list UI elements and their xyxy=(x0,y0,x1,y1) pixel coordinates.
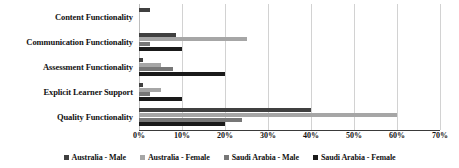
legend-item[interactable]: Australia - Male xyxy=(64,153,126,162)
bar xyxy=(139,63,161,67)
x-tick-label: 60% xyxy=(377,131,417,140)
bar-group xyxy=(139,80,440,105)
legend-swatch-icon xyxy=(313,155,318,160)
chart-legend: Australia - MaleAustralia - FemaleSaudi … xyxy=(0,150,459,164)
bar xyxy=(139,37,247,41)
bar xyxy=(139,88,161,92)
plot-area xyxy=(139,4,440,131)
bar xyxy=(139,97,182,101)
x-tick-label: 20% xyxy=(205,131,245,140)
bar-chart: Content FunctionalityCommunication Funct… xyxy=(0,0,459,168)
legend-swatch-icon xyxy=(64,155,69,160)
gridline-70 xyxy=(440,4,441,130)
bar-group xyxy=(139,105,440,130)
bar-group xyxy=(139,29,440,54)
legend-label: Australia - Male xyxy=(72,153,126,162)
bar xyxy=(139,58,143,62)
bar xyxy=(139,83,143,87)
legend-item[interactable]: Saudi Arabia - Female xyxy=(313,153,396,162)
legend-label: Australia - Female xyxy=(148,153,210,162)
plot-wrapper: Content FunctionalityCommunication Funct… xyxy=(0,4,459,130)
bar xyxy=(139,42,150,46)
category-label: Communication Functionality xyxy=(0,37,133,47)
category-label: Quality Functionality xyxy=(0,112,133,122)
bar xyxy=(139,122,225,126)
bar xyxy=(139,108,311,112)
x-axis-tick-labels: 0%10%20%30%40%50%60%70% xyxy=(0,131,459,143)
category-label: Explicit Learner Support xyxy=(0,87,133,97)
bar xyxy=(139,92,150,96)
legend-item[interactable]: Saudi Arabia - Male xyxy=(224,153,299,162)
x-tick-label: 70% xyxy=(420,131,459,140)
bar xyxy=(139,72,225,76)
x-tick-label: 50% xyxy=(334,131,374,140)
legend-swatch-icon xyxy=(224,155,229,160)
bar xyxy=(139,118,242,122)
bar xyxy=(139,8,150,12)
bar-group xyxy=(139,54,440,79)
bar xyxy=(139,47,182,51)
bar xyxy=(139,113,397,117)
bar-group xyxy=(139,4,440,29)
bar xyxy=(139,67,173,71)
x-tick-label: 10% xyxy=(162,131,202,140)
category-label: Assessment Functionality xyxy=(0,62,133,72)
legend-item[interactable]: Australia - Female xyxy=(140,153,210,162)
x-tick-label: 30% xyxy=(248,131,288,140)
legend-swatch-icon xyxy=(140,155,145,160)
x-tick-label: 40% xyxy=(291,131,331,140)
x-tick-label: 0% xyxy=(119,131,159,140)
legend-label: Saudi Arabia - Female xyxy=(321,153,396,162)
category-axis-labels: Content FunctionalityCommunication Funct… xyxy=(0,4,137,130)
category-label: Content Functionality xyxy=(0,12,133,22)
bar xyxy=(139,33,176,37)
legend-label: Saudi Arabia - Male xyxy=(232,153,299,162)
